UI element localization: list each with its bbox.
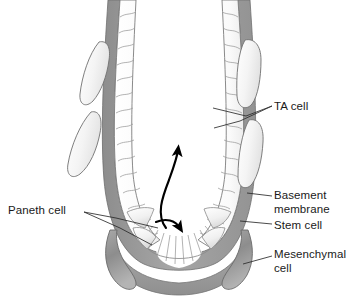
mesenchymal-cell-left-lower (68, 112, 101, 177)
label-basement-membrane: Basement membrane (274, 189, 330, 216)
label-ta-cell: TA cell (274, 100, 308, 114)
label-mesenchymal-cell: Mesenchymal cell (274, 248, 346, 275)
upward-migration-arrow (161, 150, 178, 228)
downward-division-arrow (156, 220, 180, 228)
intestinal-crypt-diagram: TA cell Basement membrane Stem cell Mese… (0, 0, 358, 300)
label-paneth-cell: Paneth cell (8, 204, 66, 218)
migration-arrows (156, 150, 180, 228)
label-stem-cell: Stem cell (274, 219, 322, 233)
